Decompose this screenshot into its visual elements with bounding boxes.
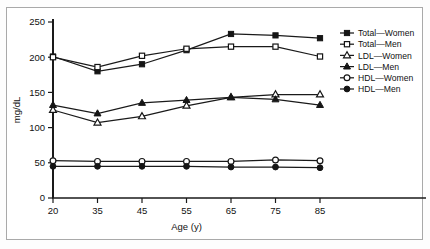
legend-marker [344,30,349,35]
y-axis-tick-label: 250 [29,16,45,27]
data-point [273,44,278,49]
x-axis-tick-label: 20 [48,205,59,216]
data-point [50,55,55,60]
data-point [317,91,324,97]
legend-marker [344,42,349,47]
series-1 [50,31,322,74]
legend-label: LDL—Women [358,51,412,61]
legend-label: Total—Men [358,39,402,49]
legend-marker [344,86,350,92]
data-point [139,163,145,169]
y-axis-tick-label: 200 [29,52,45,63]
data-point [228,44,233,49]
series-6 [50,163,323,170]
x-axis-tick-label: 45 [137,205,148,216]
data-point [273,157,279,163]
data-point [273,33,278,38]
data-point [317,158,323,164]
x-axis-tick-label: 65 [226,205,237,216]
legend-marker [344,63,351,69]
line-chart: 05010015020025020354555657585Age (y)mg/d… [0,0,430,249]
data-point [317,165,323,171]
data-point [95,163,101,169]
data-point [50,101,57,107]
y-axis-tick-label: 100 [29,122,45,133]
x-axis-tick-label: 35 [92,205,103,216]
data-point [228,31,233,36]
legend-label: Total—Women [358,28,414,38]
legend: Total—WomenTotal—MenLDL—WomenLDL—MenHDL—… [340,28,414,94]
x-axis-tick-label: 75 [270,205,281,216]
data-point [228,158,234,164]
data-point [184,46,189,51]
data-point [317,36,322,41]
data-point [50,158,56,164]
legend-marker [344,52,351,58]
legend-label: HDL—Men [358,84,401,94]
data-point [184,163,190,169]
data-point [139,53,144,58]
chart-plot-area: 05010015020025020354555657585Age (y)mg/d… [0,0,430,249]
data-point [317,54,322,59]
data-point [95,64,100,69]
y-axis-tick-label: 150 [29,87,45,98]
series-2 [50,44,322,70]
y-axis-tick-label: 50 [34,157,45,168]
figure-container: 05010015020025020354555657585Age (y)mg/d… [0,0,430,249]
data-point [139,62,144,67]
legend-label: LDL—Men [358,62,399,72]
x-axis-tick-label: 55 [181,205,192,216]
x-axis-title: Age (y) [171,221,202,232]
legend-marker [344,75,350,81]
y-axis-title: mg/dL [11,97,22,123]
y-axis-tick-label: 0 [40,192,45,203]
legend-label: HDL—Women [358,73,413,83]
data-point [50,163,56,169]
data-point [273,164,279,170]
data-point [228,164,234,170]
x-axis-tick-label: 85 [315,205,326,216]
